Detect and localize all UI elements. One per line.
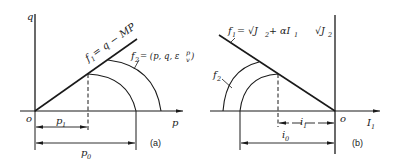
p0-label: p 0 — [81, 147, 91, 161]
svg-text:0: 0 — [285, 135, 289, 143]
svg-text:= (p, q, ε: = (p, q, ε — [140, 51, 180, 61]
svg-text:2: 2 — [216, 75, 221, 83]
svg-text:1: 1 — [62, 121, 66, 129]
svg-text:= √J: = √J — [237, 25, 259, 36]
f1-equation-b: f 1 = √J 2 + αI 1 — [227, 25, 298, 39]
svg-text:1: 1 — [371, 123, 375, 131]
f1-line — [35, 39, 137, 111]
p-axis-label: p — [172, 117, 179, 128]
f1-leader-b — [230, 38, 235, 43]
panel-a — [20, 14, 183, 150]
inner-cap-arc-b — [240, 74, 278, 111]
i0-label: i 0 — [282, 129, 289, 143]
origin-label-b: o — [340, 113, 346, 124]
sqrt-j2-axis-label: √J 2 — [315, 25, 332, 39]
i1-label: i 1 — [300, 116, 307, 130]
origin-label-a: o — [26, 113, 32, 124]
q-axis-label: q — [27, 11, 33, 22]
p1-label: p 1 — [56, 115, 66, 129]
yield-surface-diagram: q p o f 1 = q − MP f 2 = (p, q, ε p v ) … — [0, 0, 396, 163]
caption-a: (a) — [150, 138, 161, 148]
svg-text:0: 0 — [87, 153, 91, 161]
svg-text:): ) — [190, 51, 194, 61]
svg-text:√J: √J — [315, 25, 326, 36]
inner-cap-arc — [88, 74, 136, 111]
f2-equation-a: f 2 = (p, q, ε p v ) — [130, 49, 194, 64]
caption-b: (b) — [352, 138, 363, 148]
f1-line-b — [219, 35, 335, 111]
i1-axis-label: I 1 — [366, 117, 375, 131]
svg-text:+ αI: + αI — [269, 25, 290, 36]
svg-text:1: 1 — [294, 31, 298, 39]
svg-text:2: 2 — [327, 31, 332, 39]
svg-text:2: 2 — [134, 56, 139, 64]
svg-text:1: 1 — [232, 31, 236, 39]
svg-text:v: v — [186, 56, 190, 64]
svg-text:1: 1 — [303, 122, 307, 130]
f2-label-b: f 2 — [212, 69, 221, 83]
